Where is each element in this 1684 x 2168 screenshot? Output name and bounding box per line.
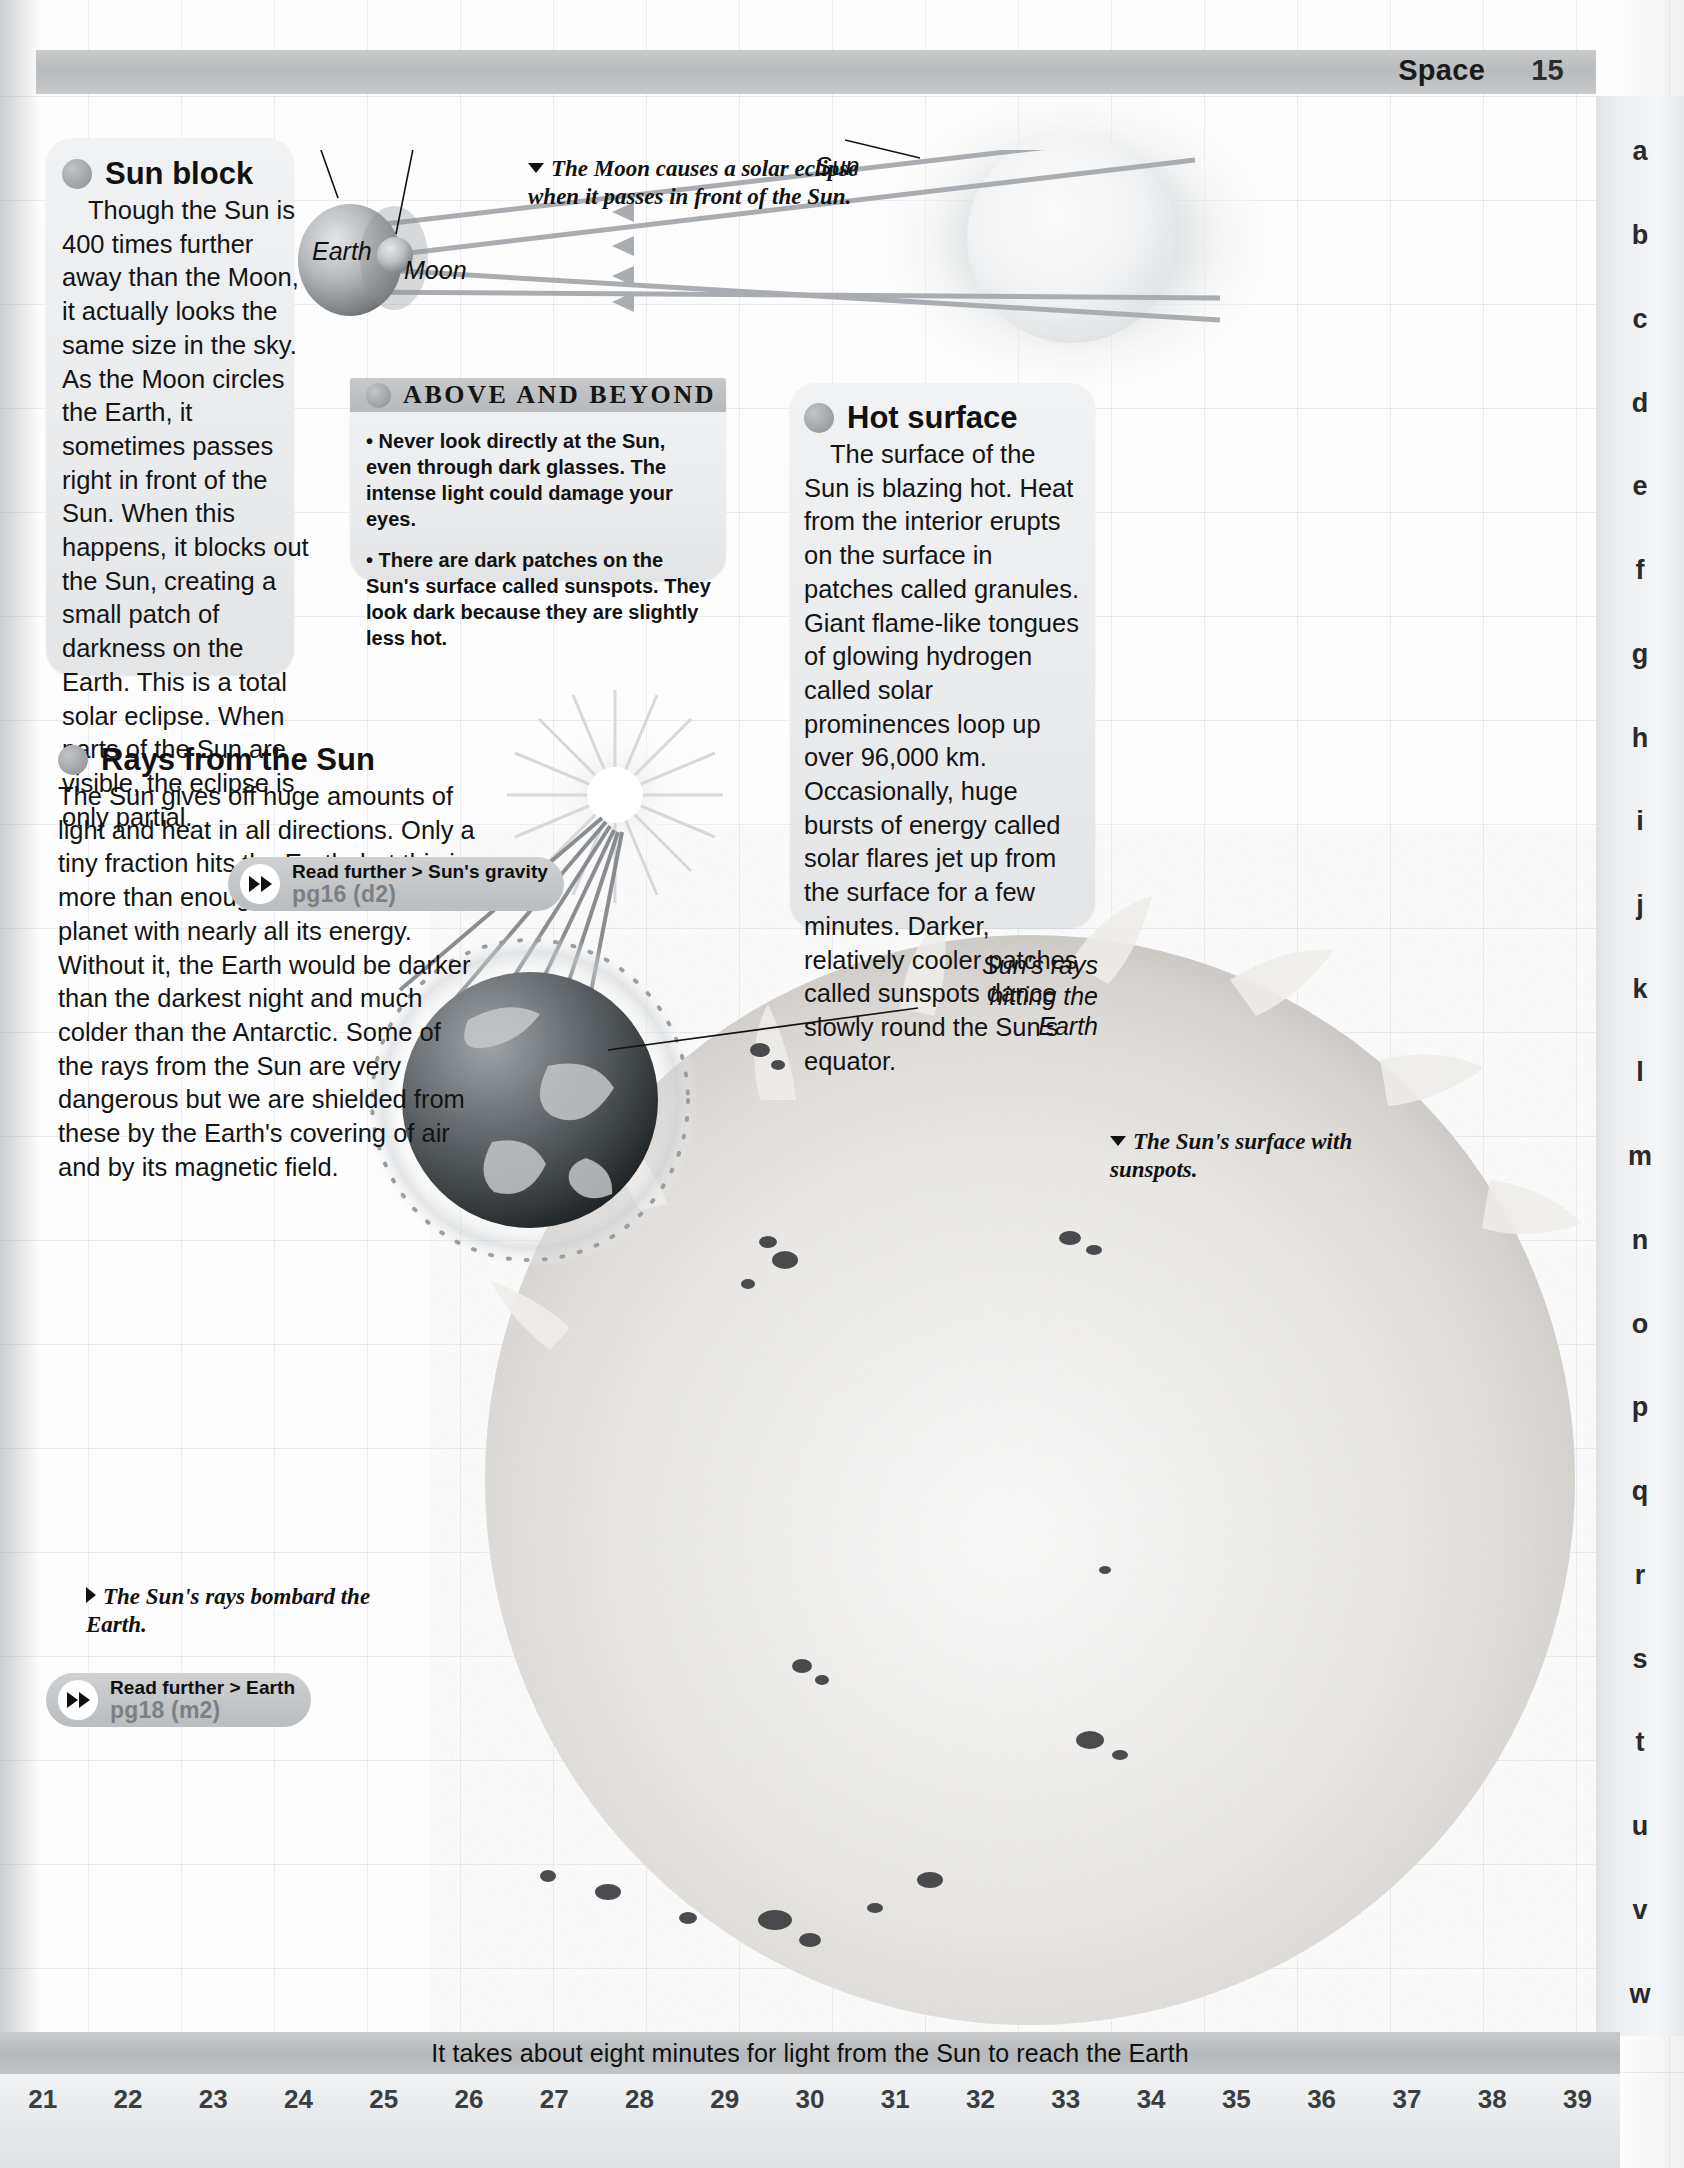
alphabet-tab-l[interactable]: l xyxy=(1596,1031,1684,1115)
above-and-beyond-title: ABOVE AND BEYOND xyxy=(403,380,716,410)
ruler-number: 34 xyxy=(1108,2074,1193,2115)
rays-from-sun-heading: Rays from the Sun xyxy=(58,742,478,778)
heading-dot-icon xyxy=(366,383,391,408)
diagram-label-moon: Moon xyxy=(404,256,467,285)
footer-fact-band: It takes about eight minutes for light f… xyxy=(0,2032,1620,2074)
alphabet-tab-m[interactable]: m xyxy=(1596,1115,1684,1199)
alphabet-tab-b[interactable]: b xyxy=(1596,194,1684,278)
ruler-number: 22 xyxy=(85,2074,170,2115)
fast-forward-icon xyxy=(240,864,280,904)
alphabet-tab-c[interactable]: c xyxy=(1596,277,1684,361)
alphabet-tab-n[interactable]: n xyxy=(1596,1199,1684,1283)
read-further-suns-gravity-button[interactable]: Read further > Sun's gravity pg16 (d2) xyxy=(228,857,564,911)
ruler-number: 38 xyxy=(1450,2074,1535,2115)
heading-dot-icon xyxy=(58,745,88,775)
ruler-number: 33 xyxy=(1023,2074,1108,2115)
ruler-number: 35 xyxy=(1194,2074,1279,2115)
caption-bombard-text: The Sun's rays bombard the Earth. xyxy=(86,1584,370,1637)
section-title: Space xyxy=(1398,54,1485,87)
read-further-label: Read further > Earth xyxy=(110,1677,295,1698)
caption-arrow-down-icon xyxy=(528,163,544,173)
diagram-label-sun: Sun xyxy=(815,152,859,181)
alphabet-tab-u[interactable]: u xyxy=(1596,1785,1684,1869)
header-band xyxy=(36,50,1596,94)
caption-arrow-down-icon xyxy=(1110,1136,1126,1146)
ruler-number: 39 xyxy=(1535,2074,1620,2115)
caption-bombard: The Sun's rays bombard the Earth. xyxy=(86,1583,386,1639)
alphabet-tab-s[interactable]: s xyxy=(1596,1617,1684,1701)
ruler-number: 31 xyxy=(853,2074,938,2115)
alphabet-tab-g[interactable]: g xyxy=(1596,612,1684,696)
ruler-number: 27 xyxy=(512,2074,597,2115)
hot-surface-heading: Hot surface xyxy=(804,400,1085,436)
sun-block-body-text: Though the Sun is 400 times further away… xyxy=(62,196,309,831)
diagram-label-earth: Earth xyxy=(312,237,372,266)
alphabet-tab-p[interactable]: p xyxy=(1596,1366,1684,1450)
alphabet-tab-r[interactable]: r xyxy=(1596,1533,1684,1617)
hot-surface-body-text: The surface of the Sun is blazing hot. H… xyxy=(804,440,1079,1075)
rays-from-sun-heading-text: Rays from the Sun xyxy=(101,742,375,778)
footer-fact-text: It takes about eight minutes for light f… xyxy=(431,2039,1188,2068)
ruler-number: 32 xyxy=(938,2074,1023,2115)
hot-surface-body: The surface of the Sun is blazing hot. H… xyxy=(804,438,1085,1078)
ruler-number: 23 xyxy=(171,2074,256,2115)
ruler-number: 21 xyxy=(0,2074,85,2115)
sun-block-heading-text: Sun block xyxy=(105,156,253,192)
alphabet-tab-w[interactable]: w xyxy=(1596,1952,1684,2036)
read-further-earth-button[interactable]: Read further > Earth pg18 (m2) xyxy=(46,1673,311,1727)
heading-dot-icon xyxy=(804,403,834,433)
ruler-number: 24 xyxy=(256,2074,341,2115)
read-further-page-ref: pg16 (d2) xyxy=(292,881,396,907)
ruler-number: 26 xyxy=(426,2074,511,2115)
rays-from-sun-body-text: The Sun gives off huge amounts of light … xyxy=(58,782,475,1181)
read-further-page-ref: pg18 (m2) xyxy=(110,1697,220,1723)
ruler-number: 30 xyxy=(767,2074,852,2115)
sun-block-heading: Sun block xyxy=(62,156,298,192)
alphabet-tab-h[interactable]: h xyxy=(1596,696,1684,780)
alphabet-tab-i[interactable]: i xyxy=(1596,780,1684,864)
alphabet-tab-e[interactable]: e xyxy=(1596,445,1684,529)
caption-sunspots: The Sun's surface with sunspots. xyxy=(1110,1128,1370,1184)
caption-sunspots-text: The Sun's surface with sunspots. xyxy=(1110,1129,1352,1182)
above-and-beyond-bullet: • There are dark patches on the Sun's su… xyxy=(366,547,712,651)
ruler-number: 25 xyxy=(341,2074,426,2115)
ruler-number: 36 xyxy=(1279,2074,1364,2115)
caption-arrow-right-icon xyxy=(86,1587,96,1603)
page-ruler: 21222324252627282930313233343536373839 xyxy=(0,2074,1620,2168)
alphabet-index-strip[interactable]: abcdefghijklmnopqrstuvw xyxy=(1596,96,1684,2036)
fast-forward-icon xyxy=(58,1680,98,1720)
sun-block-body: Though the Sun is 400 times further away… xyxy=(62,194,310,834)
alphabet-tab-j[interactable]: j xyxy=(1596,864,1684,948)
alphabet-tab-a[interactable]: a xyxy=(1596,110,1684,194)
page-number: 15 xyxy=(1531,54,1564,87)
alphabet-tab-o[interactable]: o xyxy=(1596,1282,1684,1366)
read-further-label: Read further > Sun's gravity xyxy=(292,861,548,882)
above-and-beyond-panel: ABOVE AND BEYOND • Never look directly a… xyxy=(350,378,726,581)
page-header: Space 15 xyxy=(1398,54,1564,87)
alphabet-tab-t[interactable]: t xyxy=(1596,1701,1684,1785)
alphabet-tab-k[interactable]: k xyxy=(1596,947,1684,1031)
above-and-beyond-header: ABOVE AND BEYOND xyxy=(350,378,726,412)
hot-surface-panel: Hot surface The surface of the Sun is bl… xyxy=(790,383,1095,928)
alphabet-tab-q[interactable]: q xyxy=(1596,1450,1684,1534)
alphabet-tab-f[interactable]: f xyxy=(1596,529,1684,613)
sun-block-panel: Sun block Though the Sun is 400 times fu… xyxy=(46,138,294,675)
above-and-beyond-bullet: • Never look directly at the Sun, even t… xyxy=(366,428,712,532)
ruler-number: 28 xyxy=(597,2074,682,2115)
heading-dot-icon xyxy=(62,159,92,189)
caption-eclipse-text: The Moon causes a solar eclipse when it … xyxy=(528,156,858,209)
rays-from-sun-section: Rays from the Sun The Sun gives off huge… xyxy=(58,742,478,1184)
hot-surface-heading-text: Hot surface xyxy=(847,400,1018,436)
rays-from-sun-body: The Sun gives off huge amounts of light … xyxy=(58,780,478,1184)
alphabet-tab-v[interactable]: v xyxy=(1596,1868,1684,1952)
above-and-beyond-body: • Never look directly at the Sun, even t… xyxy=(350,412,726,651)
ruler-number: 29 xyxy=(682,2074,767,2115)
alphabet-tab-d[interactable]: d xyxy=(1596,361,1684,445)
ruler-number: 37 xyxy=(1364,2074,1449,2115)
